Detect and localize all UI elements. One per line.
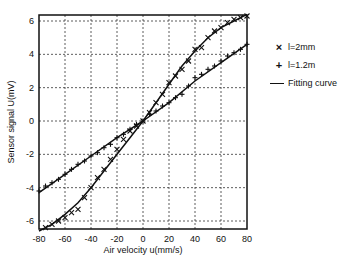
plus-marker-icon: + bbox=[270, 59, 288, 71]
svg-text:40: 40 bbox=[190, 234, 200, 244]
x-marker-icon: × bbox=[270, 41, 288, 53]
svg-text:6: 6 bbox=[29, 16, 34, 26]
y-axis-label: Sensor signal U(mV) bbox=[6, 80, 16, 163]
legend-label: l=1.2m bbox=[288, 60, 315, 70]
svg-text:-20: -20 bbox=[110, 234, 123, 244]
x-tick-labels: -80-60-40-20020406080 bbox=[32, 234, 252, 244]
svg-text:0: 0 bbox=[140, 234, 145, 244]
svg-text:-4: -4 bbox=[26, 183, 34, 193]
svg-text:60: 60 bbox=[216, 234, 226, 244]
legend-item-l2mm: × l=2mm bbox=[270, 38, 337, 56]
svg-text:2: 2 bbox=[29, 83, 34, 93]
svg-text:20: 20 bbox=[164, 234, 174, 244]
legend-item-l1-2m: + l=1.2m bbox=[270, 56, 337, 74]
legend-item-fitting-curve: Fitting curve bbox=[270, 74, 337, 92]
svg-text:-80: -80 bbox=[32, 234, 45, 244]
legend: × l=2mm + l=1.2m Fitting curve bbox=[270, 38, 337, 92]
line-icon bbox=[270, 83, 284, 84]
data-markers bbox=[37, 14, 250, 231]
x-axis-label: Air velocity u(mm/s) bbox=[103, 245, 182, 255]
legend-label: Fitting curve bbox=[288, 78, 337, 88]
legend-label: l=2mm bbox=[288, 42, 315, 52]
svg-text:-6: -6 bbox=[26, 216, 34, 226]
svg-text:-60: -60 bbox=[58, 234, 71, 244]
svg-text:0: 0 bbox=[29, 116, 34, 126]
y-tick-labels: -6-4-20246 bbox=[26, 16, 34, 226]
svg-text:80: 80 bbox=[242, 234, 252, 244]
svg-text:4: 4 bbox=[29, 49, 34, 59]
svg-text:-2: -2 bbox=[26, 149, 34, 159]
svg-text:-40: -40 bbox=[84, 234, 97, 244]
